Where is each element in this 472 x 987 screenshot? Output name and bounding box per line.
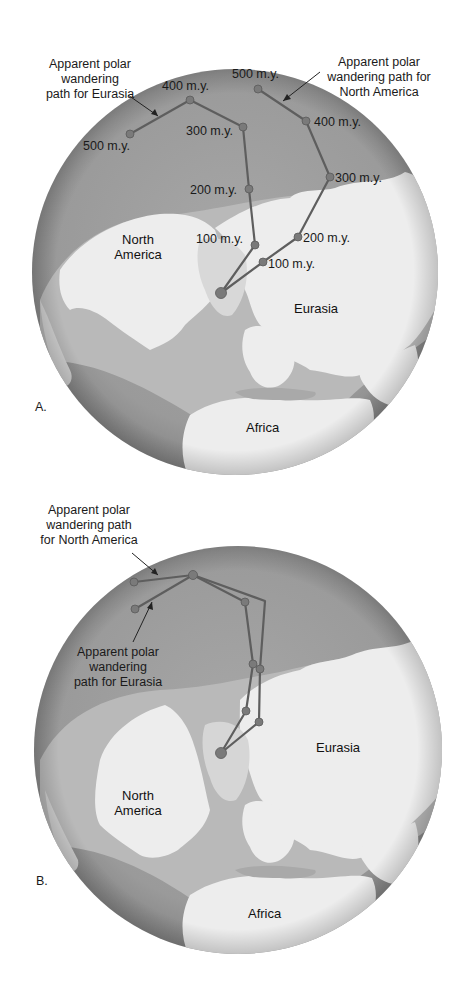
clipped-heading-fragment	[150, 976, 440, 987]
callout-eurasia-path-b: Apparent polar wandering path for Eurasi…	[68, 645, 168, 690]
panel-b: Apparent polar wandering path for North …	[0, 0, 472, 987]
pole-dot-b	[216, 748, 227, 759]
continent-africa-b: Africa	[248, 906, 281, 921]
continent-eurasia-b: Eurasia	[316, 740, 360, 755]
panel-letter-b: B.	[36, 874, 48, 888]
continent-north-america-b: North America	[108, 788, 168, 818]
callout-north-america-path-b: Apparent polar wandering path for North …	[33, 503, 145, 548]
globe-b	[0, 0, 472, 987]
